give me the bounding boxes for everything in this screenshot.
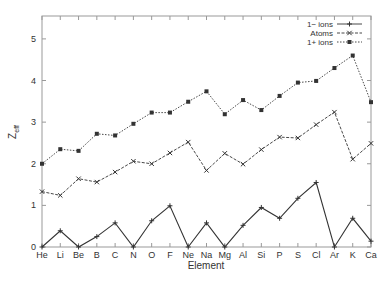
x-tick-label: Ar [330, 250, 339, 260]
series-0 [40, 180, 374, 250]
x-tick-label: P [277, 250, 283, 260]
y-axis: 012345 [31, 34, 371, 252]
x-tick-label: Ca [365, 250, 377, 260]
x-tick-label: Al [239, 250, 247, 260]
x-tick-label: F [167, 250, 173, 260]
series-2 [40, 54, 373, 166]
x-tick-label: Be [73, 250, 84, 260]
plot-frame [42, 16, 371, 247]
x-axis-label: Element [188, 260, 225, 271]
x-tick-label: B [94, 250, 100, 260]
y-tick-label: 4 [31, 76, 36, 86]
zeff-line-chart: 012345 HeLiBeBCNOFNeNaMgAlSiPSClArKCa 1−… [0, 0, 390, 284]
svg-text:Zeff: Zeff [7, 125, 20, 139]
series-1 [40, 110, 373, 198]
legend: 1− ionsAtoms1+ ions [307, 20, 362, 47]
x-tick-label: Li [57, 250, 64, 260]
y-tick-label: 3 [31, 117, 36, 127]
y-tick-label: 0 [31, 242, 36, 252]
x-tick-label: Mg [219, 250, 232, 260]
legend-label: Atoms [310, 29, 333, 38]
legend-label: 1+ ions [307, 38, 333, 47]
y-tick-label: 2 [31, 159, 36, 169]
x-tick-label: He [36, 250, 48, 260]
x-tick-label: Na [201, 250, 213, 260]
x-tick-label: Si [257, 250, 265, 260]
x-tick-label: S [295, 250, 301, 260]
x-tick-label: C [112, 250, 119, 260]
y-axis-label: Zeff [7, 125, 20, 139]
x-tick-label: Ne [182, 250, 194, 260]
y-tick-label: 1 [31, 200, 36, 210]
x-tick-label: N [130, 250, 137, 260]
y-tick-label: 5 [31, 34, 36, 44]
x-tick-label: K [350, 250, 356, 260]
legend-label: 1− ions [307, 20, 333, 29]
x-tick-label: O [148, 250, 155, 260]
y-axis-label-sub: eff [13, 125, 20, 133]
series-lines [40, 54, 374, 250]
x-tick-label: Cl [312, 250, 321, 260]
